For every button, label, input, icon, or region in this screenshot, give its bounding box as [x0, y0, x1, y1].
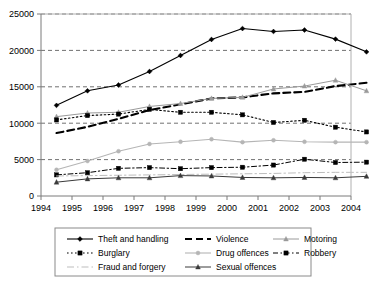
data-point-marker — [334, 140, 338, 144]
crime-statistics-line-chart: 0500010000150002000025000 19941995199619… — [0, 0, 369, 281]
data-point-marker — [85, 113, 89, 117]
data-point-marker — [209, 166, 213, 170]
x-tick-label: 2003 — [310, 203, 330, 213]
x-tick-label: 1997 — [124, 203, 144, 213]
x-tick-label: 1994 — [31, 203, 51, 213]
legend-label: Sexual offences — [216, 262, 276, 272]
data-point-marker — [178, 110, 182, 114]
data-point-marker — [302, 118, 306, 122]
x-tick-label: 2000 — [217, 203, 237, 213]
data-point-marker — [302, 157, 306, 161]
legend-label: Violence — [216, 234, 249, 244]
x-tick-label: 1996 — [93, 203, 113, 213]
legend-label: Theft and handling — [98, 234, 169, 244]
x-tick-label: 1998 — [155, 203, 175, 213]
data-point-marker — [116, 166, 120, 170]
chart-legend: Theft and handlingViolenceMotoringBurgla… — [55, 228, 337, 276]
data-point-marker — [147, 166, 151, 170]
legend-label: Robbery — [304, 248, 337, 258]
data-point-marker — [240, 113, 244, 117]
y-tick-label: 5000 — [14, 155, 34, 165]
y-tick-label: 20000 — [9, 46, 34, 56]
y-tick-label: 10000 — [9, 119, 34, 129]
data-point-marker — [365, 140, 369, 144]
data-point-marker — [241, 140, 245, 144]
data-point-marker — [78, 251, 82, 255]
x-tick-label: 2001 — [248, 203, 268, 213]
data-point-marker — [178, 167, 182, 171]
data-point-marker — [333, 160, 337, 164]
chart-container: 0500010000150002000025000 19941995199619… — [0, 0, 369, 281]
data-point-marker — [272, 138, 276, 142]
data-point-marker — [364, 130, 368, 134]
data-point-marker — [86, 159, 90, 163]
y-tick-label: 15000 — [9, 82, 34, 92]
legend-label: Fraud and forgery — [98, 262, 166, 272]
data-point-marker — [303, 140, 307, 144]
legend-label: Motoring — [304, 234, 337, 244]
data-point-marker — [284, 251, 288, 255]
data-point-marker — [116, 112, 120, 116]
data-point-marker — [147, 107, 151, 111]
data-point-marker — [117, 149, 121, 153]
data-point-marker — [271, 120, 275, 124]
legend-label: Burglary — [98, 248, 130, 258]
data-point-marker — [196, 251, 200, 255]
data-point-marker — [240, 165, 244, 169]
x-tick-label: 1999 — [186, 203, 206, 213]
data-point-marker — [333, 125, 337, 129]
x-tick-label: 2004 — [341, 203, 361, 213]
data-point-marker — [54, 118, 58, 122]
legend-label: Drug offences — [216, 248, 269, 258]
data-point-marker — [179, 140, 183, 144]
data-point-marker — [209, 110, 213, 114]
x-tick-label: 2002 — [279, 203, 299, 213]
y-tick-label: 0 — [29, 191, 34, 201]
data-point-marker — [364, 160, 368, 164]
y-tick-label: 25000 — [9, 9, 34, 19]
data-point-marker — [148, 142, 152, 146]
x-tick-label: 1995 — [62, 203, 82, 213]
data-point-marker — [271, 163, 275, 167]
data-point-marker — [55, 168, 59, 172]
data-point-marker — [85, 171, 89, 175]
data-point-marker — [210, 137, 214, 141]
